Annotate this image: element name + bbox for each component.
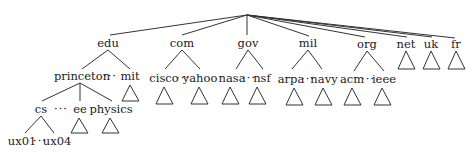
edge-mil-arpa [292, 50, 308, 69]
node-fr: fr [451, 38, 461, 51]
edge-princeton-physics [80, 83, 112, 101]
subtree-triangle-arpa [286, 88, 303, 105]
node-uk: uk [424, 38, 438, 51]
subtree-triangle-cisco [156, 87, 173, 104]
edge-cs-ux01 [25, 116, 41, 133]
edge-mil-navy [308, 50, 322, 69]
subtree-triangle-ieee [374, 88, 391, 105]
node-mit: mit [120, 70, 139, 83]
edge-cs-ux04 [41, 116, 54, 133]
subtree-triangle-nasa [222, 87, 239, 104]
edge-com-cisco [165, 50, 182, 69]
subtree-triangle-navy [315, 88, 332, 105]
ellipsis-edu: ··· [103, 70, 117, 83]
node-ux04: ux04 [43, 135, 72, 148]
node-net: net [397, 38, 416, 51]
domain-tree-diagram: edu com gov mil org net uk fr princeton … [0, 0, 475, 155]
node-org: org [357, 38, 377, 51]
ellipsis-princeton: ··· [54, 103, 68, 116]
edge-princeton-cs [42, 83, 80, 101]
subtree-triangle-yahoo [191, 87, 208, 104]
subtree-triangle-mit [122, 85, 139, 101]
node-gov: gov [238, 37, 259, 50]
edge-root-edu [110, 15, 247, 35]
subtree-triangle-acm [344, 88, 361, 105]
node-cisco: cisco [149, 72, 178, 85]
node-ieee: ieee [372, 73, 396, 86]
edge-edu-mit [108, 50, 130, 69]
node-nsf: nsf [253, 72, 271, 85]
node-princeton: princeton [54, 70, 110, 83]
node-cs: cs [35, 103, 47, 116]
node-navy: navy [310, 73, 337, 86]
node-yahoo: yahoo [183, 72, 218, 85]
edge-gov-nasa [236, 50, 248, 69]
edge-root-com [182, 15, 247, 35]
edge-com-yahoo [182, 50, 200, 69]
edge-edu-princeton [82, 50, 108, 69]
subtree-triangle-ee [71, 118, 88, 133]
subtree-triangle-uk [423, 51, 440, 69]
edge-gov-nsf [248, 50, 263, 69]
node-ux01: ux01 [8, 135, 37, 148]
node-ee: ee [73, 103, 87, 116]
node-mil: mil [299, 37, 317, 50]
subtree-triangle-fr [448, 51, 465, 69]
subtree-triangle-physics [102, 118, 119, 133]
node-physics: physics [89, 103, 132, 116]
subtree-triangle-nsf [249, 87, 266, 104]
edge-org-acm [354, 51, 367, 71]
edge-org-ieee [367, 51, 384, 71]
node-edu: edu [97, 37, 119, 50]
node-com: com [170, 37, 194, 50]
subtree-triangle-net [398, 51, 415, 69]
